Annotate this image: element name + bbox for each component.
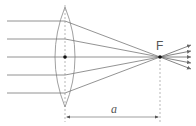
focus-point [158,55,162,59]
distance-label: a [111,102,117,116]
dimension-arrow-right-icon [155,116,159,119]
diverging-rays [160,45,191,69]
incoming-rays [7,21,65,93]
lens-diagram: F a [0,0,196,126]
lens-center-point [63,55,67,59]
focus-label: F [156,39,163,53]
refracted-rays [65,21,160,93]
dimension-arrow-left-icon [66,116,70,119]
